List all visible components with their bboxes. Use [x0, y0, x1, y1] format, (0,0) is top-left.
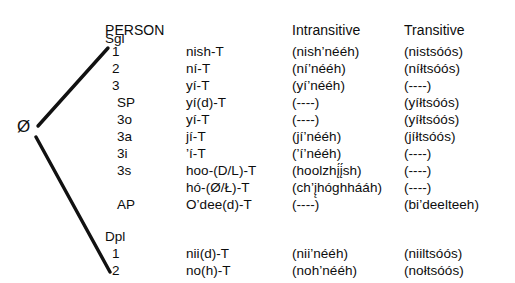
stem-form: nii(d)-T [186, 245, 229, 262]
person-label: SP [117, 94, 135, 111]
intransitive-form: (nii’nééh) [292, 245, 348, 262]
intransitive-form: (----) [292, 94, 319, 111]
transitive-form: (bi’deelteeh) [404, 196, 479, 213]
intransitive-form: (jí’nééh) [292, 128, 341, 145]
person-label: 3i [117, 145, 128, 162]
stem-form: ’í-T [186, 145, 206, 162]
stem-form: hoo-(D/L)-T [186, 162, 256, 179]
transitive-form: (----) [404, 162, 431, 179]
table-row: 3s hoo-(D/L)-T (hoolzhį́į́sh) (----) [0, 162, 515, 179]
intransitive-form: (noh’nééh) [292, 262, 357, 279]
group-label-duoplural: Dpl [105, 228, 125, 245]
person-label: 2 [112, 262, 120, 279]
person-label: 1 [112, 43, 120, 60]
stem-form: hó-(Ø/Ł)-T [186, 179, 250, 196]
transitive-form: (níłtsóós) [404, 60, 460, 77]
stem-form: yí-T [186, 111, 209, 128]
table-row: 2 ní-T (ní’nééh) (níłtsóós) [0, 60, 515, 77]
transitive-form: (----) [404, 179, 431, 196]
intransitive-form: (yí’nééh) [292, 77, 345, 94]
intransitive-form: (nish’nééh) [292, 43, 359, 60]
paradigm-table: PERSON Intransitive Transitive Sgl 1 nis… [0, 0, 515, 283]
stem-form: no(h)-T [186, 262, 231, 279]
transitive-form: (nistsóós) [404, 43, 463, 60]
table-row: 1 nish-T (nish’nééh) (nistsóós) [0, 43, 515, 60]
paradigm-figure: Ø PERSON Intransitive Transitive Sgl 1 n… [0, 0, 515, 283]
stem-form: O’dee(d)-T [186, 196, 252, 213]
person-label: 1 [112, 245, 120, 262]
person-label: 3 [112, 77, 120, 94]
intransitive-form: (----) [292, 196, 319, 213]
stem-form: ní-T [186, 60, 210, 77]
transitive-form: (jíłtsóós) [404, 128, 456, 145]
intransitive-form: (ch’į̨hóghhááh) [292, 179, 382, 196]
stem-form: yí(d)-T [186, 94, 226, 111]
table-row: AP O’dee(d)-T (----) (bi’deelteeh) [0, 196, 515, 213]
transitive-form: (yíłtsóós) [404, 94, 459, 111]
table-row: 1 nii(d)-T (nii’nééh) (niiltsóós) [0, 245, 515, 262]
transitive-form: (niiltsóós) [404, 245, 462, 262]
stem-form: jí-T [186, 128, 206, 145]
person-label: 3o [117, 111, 132, 128]
table-row: 2 no(h)-T (noh’nééh) (nołtsóós) [0, 262, 515, 279]
stem-form: yí-T [186, 77, 209, 94]
intransitive-form: (hoolzhį́į́sh) [292, 162, 362, 179]
table-row: 3o yí-T (----) (yíłtsóós) [0, 111, 515, 128]
table-row: 3 yí-T (yí’nééh) (----) [0, 77, 515, 94]
person-label: 3s [117, 162, 131, 179]
person-label: 2 [112, 60, 120, 77]
table-row: SP yí(d)-T (----) (yíłtsóós) [0, 94, 515, 111]
intransitive-form: (----) [292, 111, 319, 128]
transitive-form: (----) [404, 77, 431, 94]
table-row: hó-(Ø/Ł)-T (ch’į̨hóghhááh) (----) [0, 179, 515, 196]
group-label-row-duoplural: Dpl [0, 228, 515, 245]
table-row: 3i ’í-T (’í’nééh) (----) [0, 145, 515, 162]
intransitive-form: (’í’nééh) [292, 145, 341, 162]
transitive-form: (nołtsóós) [404, 262, 464, 279]
table-row: 3a jí-T (jí’nééh) (jíłtsóós) [0, 128, 515, 145]
person-label: 3a [117, 128, 132, 145]
person-label: AP [117, 196, 135, 213]
stem-form: nish-T [186, 43, 224, 60]
transitive-form: (----) [404, 145, 431, 162]
transitive-form: (yíłtsóós) [404, 111, 459, 128]
intransitive-form: (ní’nééh) [292, 60, 346, 77]
